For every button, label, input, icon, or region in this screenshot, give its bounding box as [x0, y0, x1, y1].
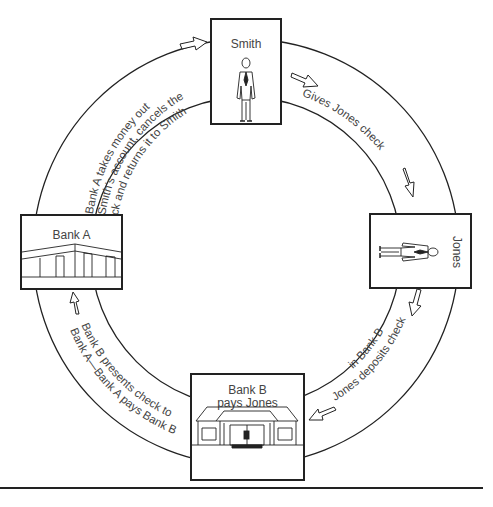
standing-man-icon	[212, 20, 280, 123]
bank-a-building-icon	[22, 216, 121, 288]
lying-man-icon	[371, 215, 470, 287]
arrow-jones-to-bankb-icon	[409, 289, 421, 316]
arrow-to-banka-icon	[70, 292, 79, 314]
check-clearing-diagram: Gives Jones check Jones deposits check i…	[0, 0, 493, 507]
node-bank-b: Bank B pays Jones	[190, 373, 305, 481]
bank-b-building-icon	[192, 375, 303, 479]
arrow-to-jones-icon	[403, 168, 414, 197]
arrow-smith-to-jones-icon	[291, 73, 318, 87]
step-jones-to-bankb-text: Jones deposits check	[330, 315, 408, 403]
node-bank-a: Bank A	[20, 214, 123, 290]
arrow-to-bankb-icon	[309, 407, 336, 420]
step-smith-to-jones-text: Gives Jones check	[301, 86, 388, 152]
node-jones: Jones	[369, 213, 472, 289]
arrow-to-smith-icon	[180, 37, 207, 50]
node-smith: Smith	[210, 18, 282, 125]
